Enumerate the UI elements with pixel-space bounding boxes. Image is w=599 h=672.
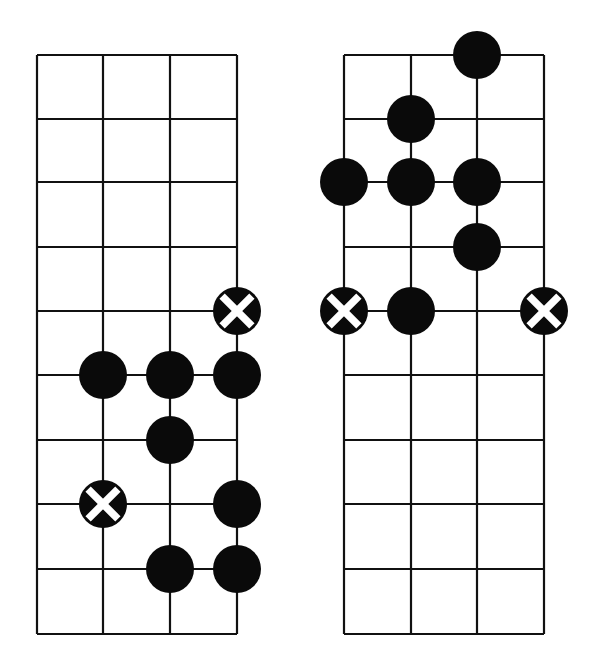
note-dot-icon <box>213 480 261 528</box>
note-dot-icon <box>213 351 261 399</box>
fretboard-grid-left <box>37 55 261 634</box>
note-dot-icon <box>453 31 501 79</box>
root-x-marker-icon <box>520 287 568 335</box>
root-x-marker-icon <box>320 287 368 335</box>
note-dot-icon <box>453 223 501 271</box>
note-dot-icon <box>387 158 435 206</box>
note-dot-icon <box>213 545 261 593</box>
root-x-marker-icon <box>213 287 261 335</box>
note-dot-icon <box>146 416 194 464</box>
root-x-marker-icon <box>79 480 127 528</box>
grid-lines <box>37 55 237 634</box>
fretboard-diagram <box>0 0 599 672</box>
fretboard-grid-right <box>320 31 568 634</box>
note-dot-icon <box>146 351 194 399</box>
note-dot-icon <box>146 545 194 593</box>
diagram-canvas <box>0 0 599 672</box>
note-dot-icon <box>320 158 368 206</box>
grid-lines <box>344 55 544 634</box>
note-dot-icon <box>453 158 501 206</box>
note-dot-icon <box>79 351 127 399</box>
note-dot-icon <box>387 287 435 335</box>
note-dot-icon <box>387 95 435 143</box>
